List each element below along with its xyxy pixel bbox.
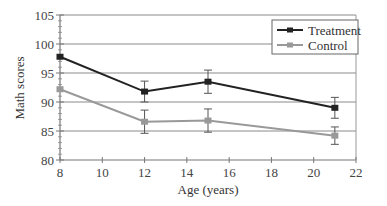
x-tick-label: 12 [138, 165, 151, 180]
legend: TreatmentControl [272, 20, 361, 54]
y-tick-label: 90 [41, 95, 54, 110]
data-marker [141, 119, 148, 125]
data-marker [205, 118, 212, 124]
x-tick-label: 14 [180, 165, 194, 180]
series-control [57, 86, 339, 144]
x-tick-label: 8 [57, 165, 64, 180]
x-tick-label: 18 [265, 165, 278, 180]
y-tick-label: 85 [41, 124, 54, 139]
legend-label: Treatment [308, 23, 361, 38]
line-chart: 80859095100105810121416182022 TreatmentC… [0, 0, 387, 206]
legend-label: Control [308, 38, 348, 53]
x-axis-title: Age (years) [178, 182, 239, 197]
y-tick-label: 105 [35, 8, 55, 23]
x-tick-label: 16 [223, 165, 237, 180]
x-tick-label: 20 [307, 165, 320, 180]
data-marker [141, 89, 148, 95]
y-tick-label: 95 [41, 66, 54, 81]
data-marker [331, 105, 338, 111]
data-marker [205, 79, 212, 85]
y-axis-title: Math scores [12, 56, 27, 119]
y-tick-label: 100 [35, 37, 55, 52]
data-marker [57, 86, 64, 92]
series-treatment [57, 54, 339, 118]
data-marker [331, 133, 338, 139]
data-marker [57, 54, 64, 60]
x-tick-label: 22 [350, 165, 363, 180]
x-tick-label: 10 [96, 165, 109, 180]
y-tick-label: 80 [41, 153, 54, 168]
